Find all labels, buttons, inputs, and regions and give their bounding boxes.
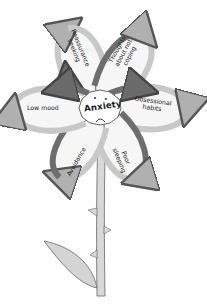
petal-label-low-mood: Low mood — [27, 104, 59, 111]
thorn — [90, 250, 97, 258]
thorn — [88, 208, 97, 216]
anxiety-flower-diagram — [0, 0, 207, 308]
leaf — [44, 241, 97, 288]
left-eye — [94, 97, 96, 99]
thorn — [104, 226, 111, 234]
